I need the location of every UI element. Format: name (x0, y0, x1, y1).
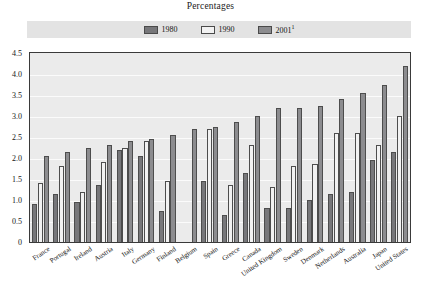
bar-1980 (74, 202, 79, 242)
y-tick-label: 2.5 (12, 133, 22, 142)
bars-layer (30, 53, 410, 242)
legend-entry-1990[interactable]: 1990 (201, 26, 235, 34)
bar-group (326, 53, 347, 242)
y-tick-label: 0.5 (12, 217, 22, 226)
bar-1990 (59, 166, 64, 242)
bar-1990 (38, 183, 43, 242)
bar-1990 (249, 145, 254, 242)
bar-1980 (222, 215, 227, 242)
bar-2001 (213, 127, 218, 243)
bar-group (304, 53, 325, 242)
bar-group (199, 53, 220, 242)
x-tick-label: France (31, 245, 51, 262)
bar-1990 (80, 192, 85, 242)
bar-1990 (228, 185, 233, 242)
x-tick-label: Austria (93, 245, 115, 263)
bar-2001 (234, 122, 239, 242)
bar-1990 (144, 141, 149, 242)
bar-1980 (96, 185, 101, 242)
x-tick-label: Belgium (174, 245, 198, 265)
bar-1980 (391, 152, 396, 242)
bar-1990 (397, 116, 402, 242)
bar-group (72, 53, 93, 242)
bar-1980 (328, 194, 333, 242)
bar-group (389, 53, 410, 242)
bar-2001 (107, 145, 112, 242)
bar-2001 (170, 135, 175, 242)
bar-1990 (334, 133, 339, 242)
legend-entry-2001[interactable]: 20011 (258, 24, 295, 35)
bar-1990 (355, 133, 360, 242)
y-tick-label: 4.5 (12, 49, 22, 58)
bar-1990 (291, 166, 296, 242)
legend-label: 1980 (162, 26, 178, 34)
bar-1980 (349, 192, 354, 242)
bar-1980 (201, 181, 206, 242)
bar-1980 (370, 160, 375, 242)
bar-group (51, 53, 72, 242)
x-tick-label: Portugal (48, 245, 72, 265)
bar-2001 (403, 66, 408, 242)
y-tick-label: 1.5 (12, 175, 22, 184)
y-tick-label: 3.5 (12, 91, 22, 100)
bar-1990 (207, 129, 212, 242)
bar-2001 (149, 139, 154, 242)
bar-2001 (128, 141, 133, 242)
bar-1980 (53, 194, 58, 242)
bar-group (30, 53, 51, 242)
bar-1990 (165, 181, 170, 242)
bar-1980 (159, 211, 164, 243)
plot-area (29, 52, 411, 243)
x-tick-label: Germany (131, 245, 157, 266)
bar-1980 (264, 208, 269, 242)
legend-swatch-icon (144, 26, 158, 34)
y-axis: 4.54.03.53.02.52.01.51.00.50 (0, 52, 26, 243)
bar-1980 (307, 200, 312, 242)
bar-group (136, 53, 157, 242)
bar-group (178, 53, 199, 242)
legend-swatch-icon (258, 26, 272, 34)
x-tick-label: Australia (342, 245, 368, 266)
bar-2001 (255, 116, 260, 242)
bar-1990 (376, 145, 381, 242)
bar-2001 (44, 156, 49, 242)
bar-2001 (86, 148, 91, 243)
bar-group (347, 53, 368, 242)
bar-chart: Percentages 1980199020011 4.54.03.53.02.… (0, 0, 421, 305)
bar-2001 (360, 93, 365, 242)
x-axis: FrancePortugalIrelandAustriaItalyGermany… (29, 243, 411, 305)
bar-1980 (286, 208, 291, 242)
bar-2001 (382, 85, 387, 243)
bar-group (368, 53, 389, 242)
legend-swatch-icon (201, 26, 215, 34)
x-tick-label: Ireland (72, 245, 93, 263)
bar-1980 (32, 204, 37, 242)
bar-1990 (122, 148, 127, 243)
x-tick-label: Finland (155, 245, 177, 264)
bar-2001 (192, 129, 197, 242)
bar-group (283, 53, 304, 242)
bar-1990 (312, 164, 317, 242)
bar-2001 (276, 108, 281, 242)
bar-group (220, 53, 241, 242)
bar-2001 (339, 99, 344, 242)
x-tick-label: Greece (220, 245, 241, 263)
bar-2001 (297, 108, 302, 242)
bar-group (114, 53, 135, 242)
x-tick-label: Spain (202, 245, 220, 261)
y-tick-label: 0 (18, 238, 22, 247)
y-tick-label: 3.0 (12, 112, 22, 121)
legend-label: 20011 (276, 24, 295, 35)
bar-group (262, 53, 283, 242)
chart-legend: 1980199020011 (27, 21, 411, 38)
bar-1990 (270, 187, 275, 242)
bar-1980 (117, 150, 122, 242)
bar-group (241, 53, 262, 242)
y-tick-label: 2.0 (12, 154, 22, 163)
legend-label: 1990 (219, 26, 235, 34)
bar-1990 (101, 162, 106, 242)
bar-1980 (243, 173, 248, 242)
legend-entry-1980[interactable]: 1980 (144, 26, 178, 34)
y-tick-label: 1.0 (12, 196, 22, 205)
bar-2001 (65, 152, 70, 242)
